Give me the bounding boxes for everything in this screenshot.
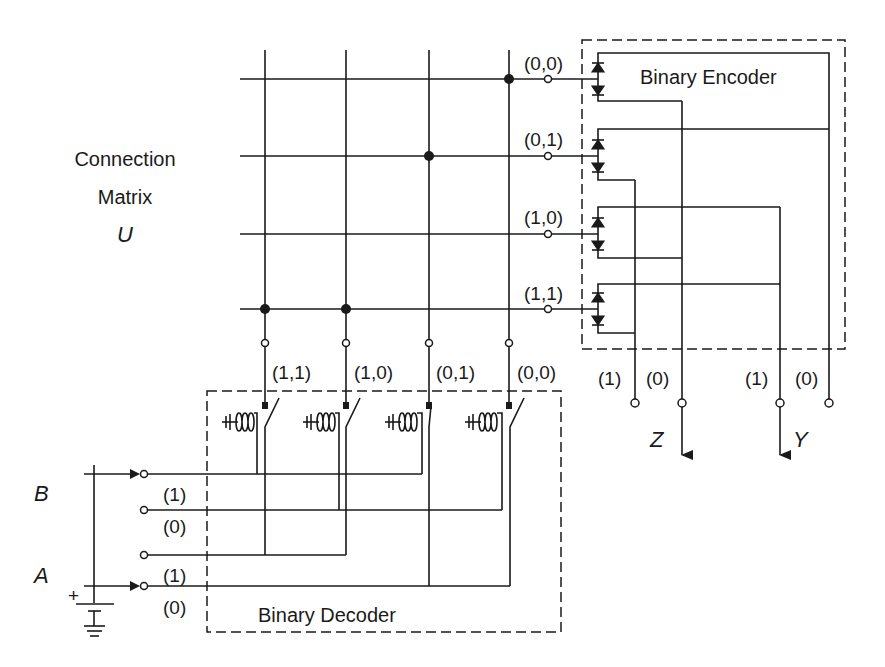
connection-dot <box>424 151 434 161</box>
y0-label: (0) <box>795 368 818 389</box>
a1-label: (1) <box>163 565 186 586</box>
output-terminal-y0 <box>825 399 833 407</box>
b-input-label: B <box>34 481 49 506</box>
a-input-label: A <box>32 563 49 588</box>
input-terminal-a0[interactable] <box>141 583 148 590</box>
matrix-title-line2: Matrix <box>98 186 152 208</box>
battery-plus-label: + <box>68 585 79 606</box>
y1-label: (1) <box>745 368 768 389</box>
column-terminal <box>506 340 513 347</box>
binary-decoder: Binary Decoder <box>148 391 561 632</box>
relay-switch-open <box>265 398 279 555</box>
binary-encoder: Binary Encoder <box>582 40 845 455</box>
relay-coil-icon <box>385 413 422 474</box>
circuit-diagram: (0,0) (0,1) (1,0) (1,1) (1,1) (1,0) (0,1… <box>0 0 885 667</box>
decoder-boundary <box>207 391 561 632</box>
relay-switch-open <box>346 398 360 555</box>
column-terminal <box>262 340 269 347</box>
output-terminal-z0 <box>678 399 686 407</box>
row-label: (0,0) <box>524 53 563 74</box>
row-terminal <box>545 76 552 83</box>
connection-dot <box>260 304 270 314</box>
row-label: (1,1) <box>524 283 563 304</box>
column-label: (1,0) <box>354 362 393 383</box>
relay-coil-icon <box>222 413 257 474</box>
connection-dot <box>341 304 351 314</box>
connection-dot <box>504 74 514 84</box>
column-label: (0,0) <box>517 362 556 383</box>
z-output-label: Z <box>649 427 665 452</box>
column-label: (0,1) <box>436 362 475 383</box>
input-switches: (1) (0) (1) (0) B A <box>32 465 186 618</box>
y-output-label: Y <box>793 427 809 452</box>
z0-label: (0) <box>646 368 669 389</box>
relay-coil-icon <box>303 413 339 510</box>
input-terminal-b1[interactable] <box>141 471 148 478</box>
relay-switch-open <box>510 398 524 586</box>
row-label: (0,1) <box>524 129 563 150</box>
b1-label: (1) <box>163 484 186 505</box>
decoder-label: Binary Decoder <box>258 604 396 626</box>
column-label: (1,1) <box>272 362 311 383</box>
relay-switch-closed <box>429 406 431 586</box>
row-label: (1,0) <box>524 207 563 228</box>
input-terminal-b0[interactable] <box>141 507 148 514</box>
a0-label: (0) <box>163 597 186 618</box>
connection-matrix: (0,0) (0,1) (1,0) (1,1) (1,1) (1,0) (0,1… <box>240 50 598 402</box>
matrix-title-symbol: U <box>117 222 133 247</box>
matrix-title-line1: Connection <box>74 148 175 170</box>
relay-coil-icon <box>465 413 502 510</box>
column-terminal <box>343 340 350 347</box>
output-terminal-z1 <box>631 399 639 407</box>
column-terminal <box>426 340 433 347</box>
b0-label: (0) <box>163 516 186 537</box>
row-terminal <box>545 153 552 160</box>
input-terminal-a1[interactable] <box>141 552 148 559</box>
output-terminal-y1 <box>776 399 784 407</box>
z1-label: (1) <box>598 368 621 389</box>
battery-icon: + <box>68 585 114 636</box>
row-terminal <box>545 306 552 313</box>
encoder-label: Binary Encoder <box>640 66 777 88</box>
row-terminal <box>545 231 552 238</box>
